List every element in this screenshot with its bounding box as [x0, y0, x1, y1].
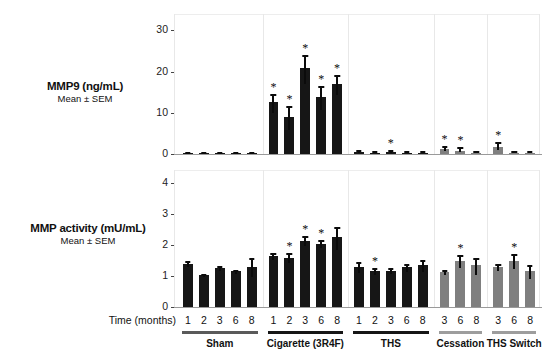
bar[interactable]	[183, 264, 193, 307]
bar-slot[interactable]	[231, 271, 241, 307]
error-bar-cap	[287, 106, 292, 108]
y-axis-tick-label: 1	[142, 269, 168, 281]
group-indicator-bar	[353, 331, 429, 334]
bar[interactable]	[199, 275, 209, 307]
group-separator	[487, 14, 488, 154]
bar[interactable]	[386, 271, 396, 307]
bar[interactable]	[269, 256, 279, 307]
group-label-ths-switch: THS Switch	[472, 338, 547, 349]
error-bar	[251, 258, 253, 277]
error-bar-cap	[442, 146, 447, 148]
group-indicator-bar	[439, 331, 483, 334]
bar-slot[interactable]	[284, 258, 294, 307]
y-axis-tick-label: 0	[142, 300, 168, 312]
bar-slot[interactable]	[316, 244, 326, 307]
panel-top-rule	[174, 14, 540, 15]
error-bar-cap	[233, 152, 238, 154]
bar-slot[interactable]	[183, 264, 193, 307]
error-bar-cap	[372, 268, 377, 270]
significance-marker: *	[286, 95, 292, 103]
significance-marker: *	[286, 242, 292, 250]
bar-slot[interactable]	[354, 267, 364, 307]
error-bar-cap	[201, 274, 206, 276]
error-bar-cap	[271, 94, 276, 96]
error-bar-cap	[217, 152, 222, 154]
error-bar-cap	[527, 151, 532, 153]
x-axis-tick-label: 8	[327, 314, 347, 326]
bar[interactable]	[440, 272, 450, 307]
time-axis-label: Time (months)	[104, 314, 176, 326]
baseline	[172, 307, 542, 308]
bar[interactable]	[402, 267, 412, 307]
y-axis-tick-mark	[171, 154, 174, 155]
bar[interactable]	[215, 268, 225, 307]
y-axis-tick-label: 10	[142, 106, 168, 118]
group-separator	[174, 14, 175, 154]
significance-marker: *	[302, 44, 308, 52]
x-axis-tick-label: 8	[520, 314, 540, 326]
y-axis-tick-label: 2	[142, 238, 168, 250]
bottom-panel-title: MMP activity (mU/mL)	[2, 222, 174, 234]
group-indicator-bar	[268, 331, 344, 334]
bar[interactable]	[231, 271, 241, 307]
error-bar	[475, 258, 477, 275]
y-axis-tick-label: 30	[142, 23, 168, 35]
bar-slot[interactable]	[269, 256, 279, 307]
x-axis-tick-label: 8	[242, 314, 262, 326]
bar[interactable]	[354, 267, 364, 307]
bar[interactable]	[493, 267, 503, 307]
error-bar-cap	[404, 151, 409, 153]
bar-slot[interactable]	[440, 272, 450, 307]
bar-slot[interactable]	[215, 268, 225, 307]
group-separator	[263, 170, 264, 307]
y-axis-tick-label: 0	[142, 147, 168, 159]
group-separator	[348, 14, 349, 154]
error-bar-cap	[287, 253, 292, 255]
bar-slot[interactable]	[300, 241, 310, 308]
error-bar-cap	[217, 266, 222, 268]
error-bar-cap	[233, 270, 238, 272]
error-bar-cap	[356, 150, 361, 152]
bar-slot[interactable]	[199, 275, 209, 307]
significance-marker: *	[511, 243, 517, 251]
error-bar-cap	[511, 151, 516, 153]
bar[interactable]	[370, 271, 380, 307]
error-bar-cap	[496, 264, 501, 266]
error-bar-cap	[185, 152, 190, 154]
error-bar-cap	[474, 151, 479, 153]
bar-slot[interactable]	[493, 267, 503, 307]
error-bar-cap	[420, 151, 425, 153]
error-bar-cap	[271, 253, 276, 255]
error-bar-cap	[249, 152, 254, 154]
error-bar-cap	[474, 258, 479, 260]
group-separator	[539, 14, 540, 154]
error-bar-cap	[511, 254, 516, 256]
bar-slot[interactable]	[402, 267, 412, 307]
error-bar-cap	[318, 86, 323, 88]
group-separator	[434, 14, 435, 154]
error-bar	[304, 55, 306, 84]
error-bar-cap	[356, 262, 361, 264]
y-axis-tick-label: 3	[142, 207, 168, 219]
bar-slot[interactable]	[386, 271, 396, 307]
bar[interactable]	[284, 258, 294, 307]
error-bar	[272, 94, 274, 113]
error-bar	[336, 75, 338, 95]
group-separator	[263, 14, 264, 154]
top-panel	[178, 12, 540, 160]
significance-marker: *	[495, 131, 501, 139]
error-bar-cap	[404, 264, 409, 266]
significance-marker: *	[302, 225, 308, 233]
error-bar-cap	[372, 151, 377, 153]
y-axis-tick-label: 20	[142, 65, 168, 77]
error-bar-cap	[334, 75, 339, 77]
top-panel-subtitle: Mean ± SEM	[10, 93, 160, 104]
bar[interactable]	[316, 244, 326, 307]
bar[interactable]	[300, 241, 310, 308]
bar-slot[interactable]	[370, 271, 380, 307]
error-bar-cap	[303, 55, 308, 57]
error-bar	[529, 265, 531, 279]
x-axis-tick-label: 8	[466, 314, 486, 326]
error-bar-cap	[442, 270, 447, 272]
error-bar	[513, 254, 515, 269]
